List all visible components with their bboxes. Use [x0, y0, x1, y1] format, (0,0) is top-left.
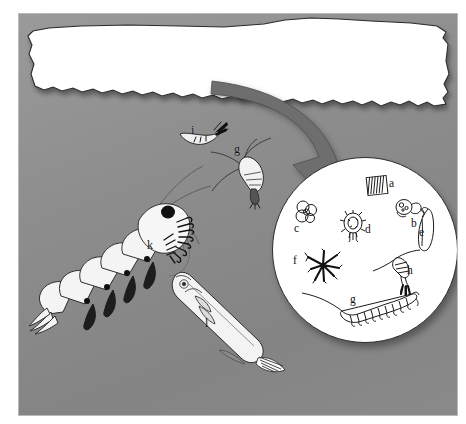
- circle-label-g: g: [350, 294, 356, 306]
- circle-label-c: c: [294, 223, 299, 235]
- organism-radiolarian: [338, 209, 368, 243]
- circle-label-f: f: [293, 255, 297, 267]
- water-label-k: k: [147, 239, 153, 251]
- organism-calanoid-copepod-g: [209, 137, 287, 209]
- water-label-g: g: [234, 143, 240, 155]
- water-label-l: l: [205, 317, 208, 329]
- organism-harpacticoid-copepod: [300, 287, 420, 329]
- illustration-plate: a b: [18, 13, 458, 416]
- organism-fish-l: [159, 264, 289, 374]
- magnified-circle-inset: a b: [272, 157, 458, 343]
- circle-label-d: d: [365, 224, 371, 236]
- organism-diatom-chain: [364, 173, 390, 199]
- water-label-i: i: [191, 124, 194, 136]
- figure-root: a b: [0, 0, 466, 424]
- circle-label-a: a: [389, 178, 394, 190]
- circle-label-e: e: [419, 227, 424, 239]
- organism-stellate-colony: [304, 249, 342, 283]
- circle-label-h: h: [407, 265, 413, 277]
- organism-curved-diatom: [414, 205, 440, 255]
